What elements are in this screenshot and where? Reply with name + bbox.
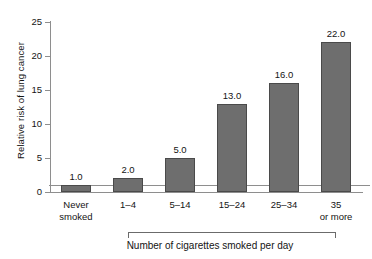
y-tick-label-wrap: 15 bbox=[18, 85, 42, 95]
y-tick-label-wrap: 25 bbox=[18, 17, 42, 27]
x-tick-label-line: smoked bbox=[41, 211, 111, 223]
bar-value-label: 16.0 bbox=[254, 70, 314, 80]
y-axis-line bbox=[50, 21, 51, 193]
bar bbox=[165, 158, 195, 192]
y-tick-mark bbox=[45, 56, 50, 57]
y-tick-label: 15 bbox=[20, 85, 42, 95]
y-tick-mark bbox=[45, 158, 50, 159]
y-tick-label: 20 bbox=[20, 51, 42, 61]
y-tick-label: 10 bbox=[20, 119, 42, 129]
bar bbox=[61, 185, 91, 192]
y-tick-label: 0 bbox=[20, 187, 42, 197]
bar bbox=[113, 178, 143, 192]
bar-value-label: 5.0 bbox=[150, 145, 210, 155]
bar-value-label: 2.0 bbox=[98, 165, 158, 175]
x-tick-label: 35or more bbox=[301, 199, 371, 222]
y-tick-mark bbox=[45, 90, 50, 91]
x-tick-label-line: or more bbox=[301, 211, 371, 223]
bar-value-label: 13.0 bbox=[202, 91, 262, 101]
x-tick-label-line: 35 bbox=[301, 199, 371, 211]
bar-value-label: 1.0 bbox=[46, 172, 106, 182]
x-axis-line bbox=[49, 192, 363, 193]
bar bbox=[217, 104, 247, 192]
y-tick-label-wrap: 20 bbox=[18, 51, 42, 61]
y-tick-label-wrap: 10 bbox=[18, 119, 42, 129]
lung-cancer-risk-bar-chart: Relative risk of lung cancer 0510152025 … bbox=[0, 0, 372, 259]
y-tick-label-wrap: 5 bbox=[18, 153, 42, 163]
x-axis-group-bracket bbox=[128, 232, 336, 238]
bar-value-label: 22.0 bbox=[306, 29, 366, 39]
bar bbox=[321, 42, 351, 192]
y-tick-label-wrap: 0 bbox=[18, 187, 42, 197]
bar bbox=[269, 83, 299, 192]
y-tick-label: 5 bbox=[20, 153, 42, 163]
y-tick-mark bbox=[45, 192, 50, 193]
y-tick-label: 25 bbox=[20, 17, 42, 27]
y-tick-mark bbox=[45, 22, 50, 23]
x-axis-title: Number of cigarettes smoked per day bbox=[50, 240, 370, 251]
y-tick-mark bbox=[45, 124, 50, 125]
